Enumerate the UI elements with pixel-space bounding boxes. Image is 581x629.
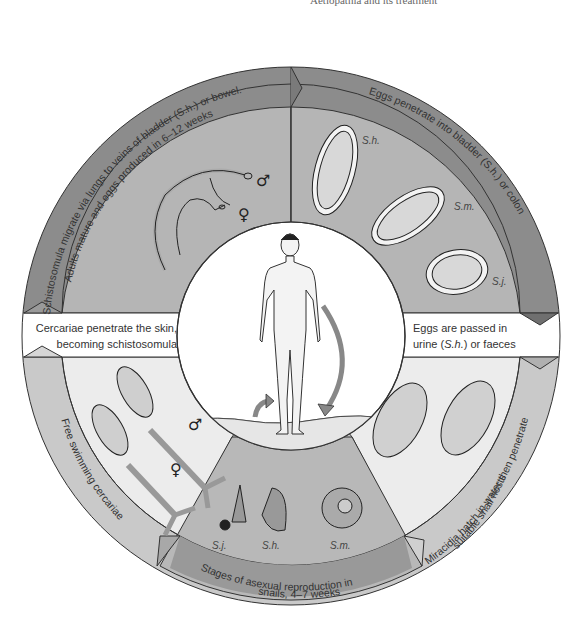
- female-symbol: ♀: [238, 205, 250, 224]
- stage-eggs-passed-line2: urine (S.h.) or faeces: [413, 338, 516, 350]
- egg-label-sj: S.j.: [492, 276, 506, 287]
- stage-eggs-passed-line1: Eggs are passed in: [413, 322, 507, 334]
- egg-label-sm: S.m.: [454, 201, 475, 212]
- female-symbol-cercaria: ♀: [170, 460, 182, 479]
- snail-label-sh: S.h.: [262, 540, 280, 551]
- male-symbol-cercaria: ♂: [188, 415, 202, 434]
- stage-penetrate-skin-line1: Cercariae penetrate the skin,: [36, 322, 177, 334]
- snail-label-sj: S.j.: [212, 540, 226, 551]
- snail-label-sm: S.m.: [330, 540, 351, 551]
- male-symbol: ♂: [256, 171, 270, 190]
- egg-label-sh: S.h.: [362, 135, 380, 146]
- schistosoma-life-cycle-diagram: ♂ ♀ S.h. S.m. S.j. ♂ ♀ S.j. S.h. S.m. Sc…: [0, 0, 581, 629]
- stage-penetrate-skin-line2: becoming schistosomula: [57, 338, 178, 350]
